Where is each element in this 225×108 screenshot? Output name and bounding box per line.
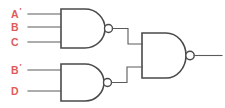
input-label-a-not: A [11, 8, 19, 20]
input-prime-b-not: ′ [20, 62, 22, 71]
gate-nand-1-body [61, 9, 105, 48]
input-label-c: C [11, 36, 19, 48]
gate-nand-3-inversion-bubble [186, 51, 194, 59]
gate-nand-2-body [61, 64, 104, 101]
input-label-d: D [11, 85, 19, 97]
wire-nand1-to-nand3 [113, 29, 143, 45]
input-label-b-not: B [11, 64, 19, 76]
input-label-b: B [11, 21, 19, 33]
gate-nand-1-inversion-bubble [105, 25, 113, 33]
gate-nand-3-body [142, 33, 186, 78]
logic-circuit-svg: A ′ B C B ′ D [0, 0, 225, 108]
gate-nand-2-inversion-bubble [104, 79, 112, 87]
circuit-diagram-canvas: A ′ B C B ′ D [0, 0, 225, 108]
input-prime-a-not: ′ [20, 6, 22, 15]
wire-nand2-to-nand3 [112, 67, 143, 83]
